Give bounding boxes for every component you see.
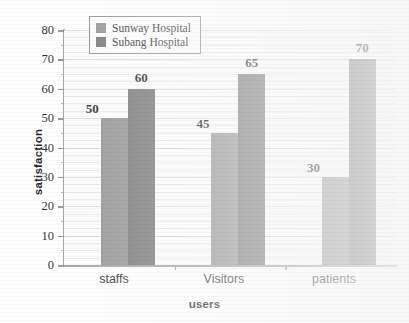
y-tick-40	[58, 148, 64, 150]
legend-label-sunway: Sunway Hospital	[112, 22, 191, 34]
y-tick-minor	[61, 45, 65, 46]
gridline-minor	[64, 96, 396, 97]
bar-value-sunway-visitors: 45	[196, 116, 209, 132]
bar-value-subang-visitors: 65	[245, 55, 258, 71]
legend-item-sunway[interactable]: Sunway Hospital	[96, 21, 191, 35]
gridline-60	[64, 89, 396, 90]
legend-item-subang[interactable]: Subang Hospital	[96, 35, 191, 49]
x-axis-label-patients: patients	[312, 272, 356, 286]
gridline-70	[64, 59, 396, 60]
y-tick-minor	[61, 250, 65, 251]
y-tick-minor	[61, 192, 65, 193]
y-tick-label-80: 80	[42, 23, 55, 38]
x-tick-separator	[285, 265, 287, 270]
legend-swatch-icon-sunway	[96, 23, 106, 33]
bar-subang-patients[interactable]: 70	[349, 59, 376, 265]
x-axis-label-staffs: staffs	[99, 272, 129, 286]
bar-subang-staffs[interactable]: 60	[128, 89, 155, 265]
gridline-minor	[64, 81, 396, 82]
y-tick-60	[58, 89, 64, 91]
bar-subang-visitors[interactable]: 65	[238, 74, 265, 265]
y-tick-20	[58, 206, 64, 208]
x-tick-separator	[175, 265, 177, 270]
gridline-minor	[64, 103, 396, 104]
y-tick-10	[58, 236, 64, 238]
y-tick-70	[58, 59, 64, 61]
y-tick-label-30: 30	[42, 169, 55, 184]
x-axis-title: users	[0, 298, 409, 310]
y-tick-0	[58, 265, 64, 267]
bar-sunway-patients[interactable]: 30	[322, 177, 349, 265]
y-tick-label-20: 20	[42, 199, 55, 214]
gridline-minor	[64, 111, 396, 112]
bar-sunway-staffs[interactable]: 50	[101, 118, 128, 265]
y-tick-minor	[61, 162, 65, 163]
bar-value-sunway-patients: 30	[307, 160, 320, 176]
y-tick-minor	[61, 221, 65, 222]
gridline-minor	[64, 74, 396, 75]
bar-chart-figure: satisfaction	[0, 0, 409, 323]
x-axis-label-visitors: Visitors	[204, 272, 245, 286]
y-tick-minor	[61, 74, 65, 75]
y-tick-label-60: 60	[42, 81, 55, 96]
y-tick-label-0: 0	[48, 258, 54, 273]
y-tick-50	[58, 118, 64, 120]
gridline-minor	[64, 67, 396, 68]
bar-value-subang-staffs: 60	[135, 70, 148, 86]
x-axis-line	[63, 265, 397, 267]
plot-area: 80 70 60 50 40 30 20 10 0 50 60	[64, 30, 396, 265]
y-tick-80	[58, 30, 64, 32]
y-tick-minor	[61, 133, 65, 134]
y-tick-label-10: 10	[42, 228, 55, 243]
y-tick-label-40: 40	[42, 140, 55, 155]
bar-value-subang-patients: 70	[356, 40, 369, 56]
y-axis-title: satisfaction	[32, 128, 44, 194]
legend-label-subang: Subang Hospital	[112, 36, 188, 48]
y-tick-label-70: 70	[42, 52, 55, 67]
chart-legend[interactable]: Sunway Hospital Subang Hospital	[89, 16, 201, 54]
bar-value-sunway-staffs: 50	[86, 101, 99, 117]
y-tick-30	[58, 177, 64, 179]
legend-swatch-icon-subang	[96, 37, 106, 47]
y-tick-label-50: 50	[42, 111, 55, 126]
y-tick-minor	[61, 103, 65, 104]
bar-sunway-visitors[interactable]: 45	[211, 133, 238, 265]
